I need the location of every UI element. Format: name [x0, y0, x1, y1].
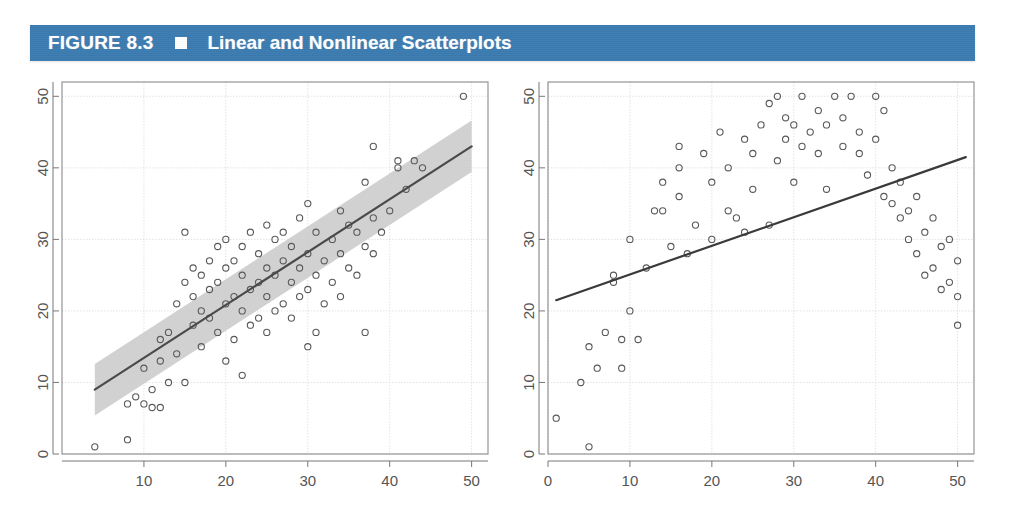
data-point [922, 229, 928, 235]
data-point [215, 243, 221, 249]
data-point [362, 243, 368, 249]
data-point [602, 329, 608, 335]
data-point [586, 444, 592, 450]
data-points-group [553, 93, 961, 450]
data-point [619, 365, 625, 371]
x-tick-label: 20 [704, 472, 721, 489]
data-point [370, 251, 376, 257]
y-tick-label: 10 [520, 374, 537, 391]
data-point [92, 444, 98, 450]
data-point [247, 229, 253, 235]
figure-title: Linear and Nonlinear Scatterplots [207, 32, 511, 54]
data-point [190, 294, 196, 300]
data-point [938, 286, 944, 292]
data-point [676, 143, 682, 149]
data-point [256, 315, 262, 321]
figure-header-bar: FIGURE 8.3 Linear and Nonlinear Scatterp… [30, 25, 975, 61]
data-point [610, 272, 616, 278]
data-point [297, 294, 303, 300]
data-point [774, 158, 780, 164]
y-tick-label: 40 [34, 160, 51, 177]
data-point [783, 136, 789, 142]
data-point [280, 301, 286, 307]
data-point [905, 208, 911, 214]
data-point [815, 150, 821, 156]
data-point [619, 336, 625, 342]
data-point [313, 329, 319, 335]
y-tick-label: 20 [34, 303, 51, 320]
data-point [676, 193, 682, 199]
data-point [149, 387, 155, 393]
y-tick-label: 50 [34, 88, 51, 105]
x-tick-label: 20 [218, 472, 235, 489]
data-point [362, 329, 368, 335]
data-point [897, 215, 903, 221]
data-point [264, 329, 270, 335]
data-point [190, 265, 196, 271]
data-point [914, 251, 920, 257]
data-point [231, 336, 237, 342]
x-axis: 1020304050 [62, 461, 488, 489]
data-point [239, 372, 245, 378]
data-point [346, 265, 352, 271]
data-point [881, 108, 887, 114]
data-point [256, 251, 262, 257]
data-point [313, 272, 319, 278]
regression-line [556, 157, 966, 300]
data-point [823, 122, 829, 128]
plot-frame [548, 82, 974, 454]
data-point [766, 100, 772, 106]
data-point [362, 179, 368, 185]
data-point [733, 215, 739, 221]
data-point [701, 150, 707, 156]
y-tick-label: 30 [520, 231, 537, 248]
data-point [725, 208, 731, 214]
y-tick-label: 40 [520, 160, 537, 177]
data-point [264, 222, 270, 228]
x-tick-label: 40 [381, 472, 398, 489]
data-point [668, 243, 674, 249]
x-tick-label: 30 [785, 472, 802, 489]
linear-scatterplot-panel: 102030405001020304050 [22, 72, 502, 512]
data-point [370, 143, 376, 149]
nonlinear-scatterplot-svg: 0102030405001020304050 [508, 72, 988, 512]
y-axis: 01020304050 [34, 82, 59, 458]
data-point [395, 158, 401, 164]
data-point [930, 265, 936, 271]
data-point [946, 279, 952, 285]
data-point [586, 344, 592, 350]
data-point [717, 129, 723, 135]
data-point [660, 179, 666, 185]
x-tick-label: 0 [544, 472, 552, 489]
data-point [758, 122, 764, 128]
y-tick-label: 0 [34, 450, 51, 458]
data-point [692, 222, 698, 228]
data-point [239, 243, 245, 249]
data-point [124, 437, 130, 443]
data-point [938, 243, 944, 249]
data-point [840, 143, 846, 149]
x-tick-label: 50 [463, 472, 480, 489]
y-tick-label: 0 [520, 450, 537, 458]
data-point [297, 215, 303, 221]
data-point [881, 193, 887, 199]
data-point [889, 201, 895, 207]
data-point [635, 336, 641, 342]
data-point [182, 229, 188, 235]
y-tick-label: 10 [34, 374, 51, 391]
linear-scatterplot-svg: 102030405001020304050 [22, 72, 502, 512]
data-point [651, 208, 657, 214]
x-axis: 01020304050 [544, 461, 974, 489]
data-point [124, 401, 130, 407]
data-point [815, 108, 821, 114]
data-point [206, 258, 212, 264]
x-tick-label: 30 [299, 472, 316, 489]
data-point [660, 208, 666, 214]
data-point [215, 279, 221, 285]
data-point [198, 272, 204, 278]
y-tick-label: 30 [34, 231, 51, 248]
data-point [840, 115, 846, 121]
x-tick-label: 50 [949, 472, 966, 489]
data-point [799, 143, 805, 149]
data-point [133, 394, 139, 400]
